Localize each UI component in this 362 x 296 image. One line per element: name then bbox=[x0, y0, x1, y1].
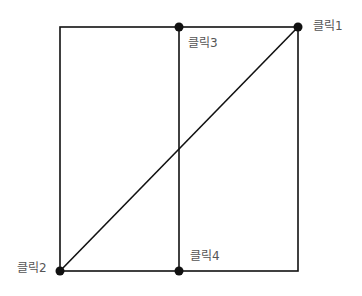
label-click1: 클릭1 bbox=[313, 20, 343, 32]
diagram-canvas bbox=[0, 0, 362, 296]
label-click2: 클릭2 bbox=[17, 262, 47, 274]
point-click4 bbox=[175, 267, 184, 276]
point-click1 bbox=[294, 23, 303, 32]
label-click3: 클릭3 bbox=[188, 37, 218, 49]
point-click2 bbox=[56, 267, 65, 276]
label-click4: 클릭4 bbox=[190, 250, 220, 262]
point-click3 bbox=[175, 23, 184, 32]
